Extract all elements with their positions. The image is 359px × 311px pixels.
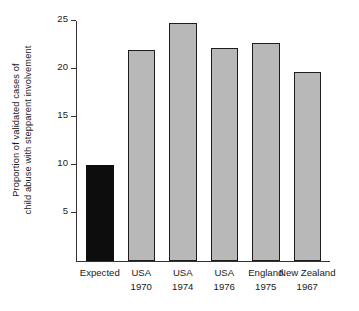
x-axis-line bbox=[76, 261, 330, 262]
y-tick-25: 25 bbox=[71, 20, 76, 21]
bar-expected bbox=[86, 165, 114, 261]
y-tick-5: 5 bbox=[71, 212, 76, 213]
bar-usa-1970 bbox=[128, 50, 156, 261]
y-tick-label-15: 15 bbox=[57, 109, 68, 120]
y-tick-20: 20 bbox=[71, 68, 76, 69]
plot-area: 510152025 bbox=[76, 18, 330, 262]
y-tick-label-20: 20 bbox=[57, 61, 68, 72]
y-tick-label-5: 5 bbox=[63, 205, 68, 216]
y-tick-15: 15 bbox=[71, 116, 76, 117]
y-axis-title: Proportion of validated cases of child a… bbox=[0, 0, 44, 262]
y-tick-label-10: 10 bbox=[57, 157, 68, 168]
bar-new-zealand-1967 bbox=[294, 72, 322, 261]
y-tick-10: 10 bbox=[71, 164, 76, 165]
bar-usa-1976 bbox=[211, 48, 239, 261]
bar-usa-1974 bbox=[169, 23, 197, 261]
x-tick-label-5: New Zealand1967 bbox=[257, 266, 357, 293]
x-tick-label-5-line-1: 1967 bbox=[257, 280, 357, 294]
y-tick-label-25: 25 bbox=[57, 13, 68, 24]
bar-england-1975 bbox=[252, 43, 280, 261]
y-axis-title-line-1: Proportion of validated cases of bbox=[10, 63, 22, 196]
y-axis-title-line-2: child abuse with stepparent involvement bbox=[22, 46, 34, 215]
y-axis-line bbox=[76, 21, 77, 262]
x-tick-label-5-line-0: New Zealand bbox=[257, 266, 357, 280]
bar-chart-figure: Proportion of validated cases of child a… bbox=[0, 0, 359, 311]
